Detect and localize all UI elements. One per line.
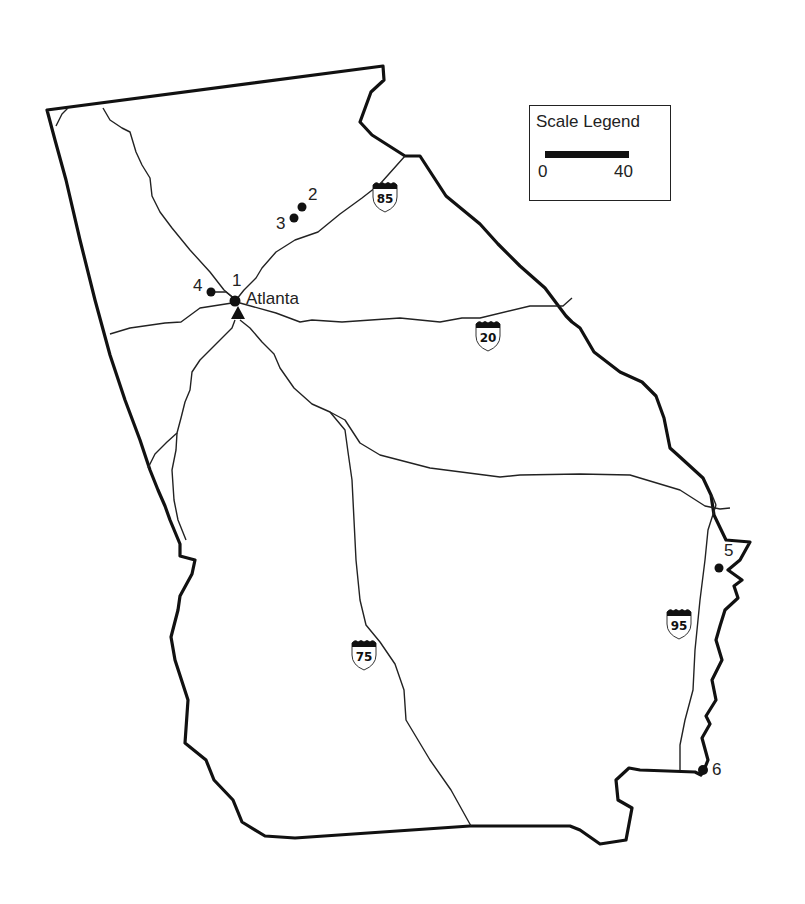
site-marker-5 xyxy=(715,564,724,573)
scale-min-label: 0 xyxy=(538,162,547,182)
city-label-atlanta: Atlanta xyxy=(246,289,299,308)
atlanta-dot xyxy=(230,296,241,307)
site-marker-6 xyxy=(698,765,708,775)
road-northwest xyxy=(103,108,236,300)
svg-text:75: 75 xyxy=(356,650,373,664)
road-southwest xyxy=(148,320,235,468)
site-label-3: 3 xyxy=(276,214,285,233)
i75-south xyxy=(240,320,471,826)
site-marker-2 xyxy=(298,203,307,212)
site-label-4: 4 xyxy=(193,276,202,295)
i95-coastal xyxy=(680,505,716,770)
i85-northeast xyxy=(236,156,405,300)
scale-max-label: 40 xyxy=(614,162,633,182)
site-label-1: 1 xyxy=(232,271,241,290)
georgia-map: Atlanta 1 2 3 4 5 6 85 20 75 95 xyxy=(0,0,805,904)
scale-bar xyxy=(545,151,629,158)
road-far-northwest xyxy=(56,108,68,126)
site-label-2: 2 xyxy=(308,185,317,204)
svg-text:85: 85 xyxy=(377,192,394,206)
i20-west xyxy=(110,303,232,334)
svg-text:20: 20 xyxy=(480,331,497,345)
legend-title: Scale Legend xyxy=(536,112,640,132)
interstate-shield-20-icon: 20 xyxy=(476,322,500,352)
interstate-shield-85-icon: 85 xyxy=(373,183,397,213)
road-macon-savannah xyxy=(330,412,730,509)
site-label-5: 5 xyxy=(724,541,733,560)
svg-text:95: 95 xyxy=(671,619,688,633)
road-southwest-branch xyxy=(172,433,186,540)
site-label-6: 6 xyxy=(712,760,721,779)
scale-legend: Scale Legend 0 40 xyxy=(529,105,671,201)
interstate-shield-95-icon: 95 xyxy=(667,610,691,640)
site-marker-3 xyxy=(290,214,299,223)
site-marker-4 xyxy=(207,288,216,297)
atlanta-triangle-icon xyxy=(231,306,245,319)
interstate-shield-75-icon: 75 xyxy=(352,641,376,671)
